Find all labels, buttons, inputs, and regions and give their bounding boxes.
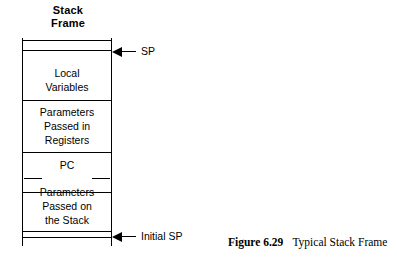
region-1-line-2: Passed in <box>22 119 112 133</box>
region-3-line-3: the Stack <box>22 213 112 227</box>
diagram-title-line-2: Frame <box>22 17 114 30</box>
diagram-title-line-1: Stack <box>22 4 114 17</box>
divider-below-sp <box>22 50 112 51</box>
divider-local-params <box>22 100 112 101</box>
region-1-line-1: Parameters <box>22 105 112 119</box>
region-label-local-variables: Local Variables <box>22 66 112 94</box>
pc-dash-left <box>24 178 42 179</box>
sp-arrow-shaft <box>121 51 136 52</box>
initial-sp-label: Initial SP <box>141 229 182 243</box>
region-label-pc: PC <box>22 158 112 172</box>
sp-label: SP <box>141 44 155 58</box>
region-0-line-1: Local <box>22 66 112 80</box>
figure-caption: Figure 6.29Typical Stack Frame <box>228 236 387 248</box>
diagram-title: Stack Frame <box>22 4 114 30</box>
frame-top-line <box>22 40 112 41</box>
region-3-line-2: Passed on <box>22 199 112 213</box>
region-label-params-registers: Parameters Passed in Registers <box>22 105 112 147</box>
region-3-line-1: Parameters <box>22 185 112 199</box>
divider-above-initial-sp <box>22 231 112 232</box>
frame-bottom-line <box>22 237 112 238</box>
region-label-params-stack: Parameters Passed on the Stack <box>22 185 112 227</box>
region-1-line-3: Registers <box>22 133 112 147</box>
figure-title: Typical Stack Frame <box>292 236 387 248</box>
divider-params-pc <box>22 152 112 153</box>
figure-canvas: Stack Frame Local Variables Parameters P… <box>0 0 397 267</box>
pc-dash-right <box>92 178 110 179</box>
figure-number: Figure 6.29 <box>228 236 283 248</box>
initial-sp-arrow-shaft <box>121 236 136 237</box>
region-0-line-2: Variables <box>22 80 112 94</box>
region-2-line-1: PC <box>22 158 112 172</box>
